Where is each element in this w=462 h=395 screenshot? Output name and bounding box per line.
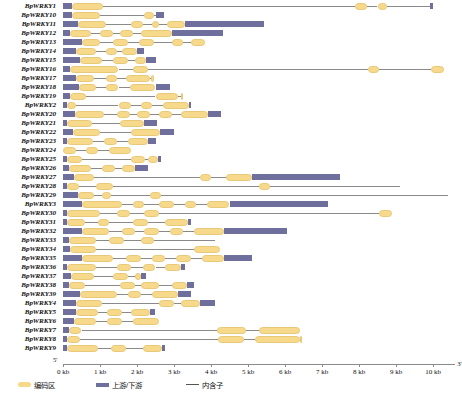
- exon-segment: [131, 156, 145, 163]
- gene-row: BpWRKY4: [0, 299, 447, 308]
- intron-segment: [109, 231, 122, 232]
- exon-segment: [141, 282, 160, 289]
- intron-segment: [148, 222, 165, 223]
- utr-segment: [135, 165, 148, 171]
- exon-segment: [172, 39, 183, 46]
- exon-segment: [67, 138, 92, 145]
- exon-segment: [133, 219, 148, 226]
- intron-segment: [135, 285, 141, 286]
- exon-segment: [98, 219, 109, 226]
- exon-segment: [200, 174, 211, 181]
- exon-segment: [131, 21, 142, 28]
- exon-segment: [130, 84, 156, 91]
- gene-track: [0, 263, 447, 272]
- exon-segment: [109, 147, 131, 154]
- legend-label-exon: 编码区: [34, 379, 55, 390]
- gene-row: BpWRKY28: [0, 182, 447, 191]
- exon-segment: [86, 147, 98, 154]
- exon-segment: [181, 111, 208, 118]
- gene-row: BpWRKY20: [0, 110, 447, 119]
- intron-segment: [113, 186, 259, 187]
- gene-row: BpWRKY39: [0, 290, 447, 299]
- exon-segment: [76, 300, 102, 307]
- exon-segment: [67, 183, 78, 190]
- exon-segment: [194, 228, 224, 235]
- exon-segment: [128, 291, 141, 298]
- gene-row: BpWRKY17: [0, 74, 447, 83]
- exon-segment: [71, 273, 94, 280]
- utr-segment: [137, 48, 144, 54]
- gene-row: BpWRKY18: [0, 83, 447, 92]
- utr-segment: [63, 57, 80, 63]
- intron-segment: [82, 159, 131, 160]
- gene-row: BpWRKY27: [0, 173, 447, 182]
- intron-segment: [117, 294, 128, 295]
- exon-segment: [67, 345, 98, 352]
- intron-segment: [96, 249, 194, 250]
- utr-segment: [172, 30, 223, 36]
- gene-row: BpWRKY14: [0, 47, 447, 56]
- axis-tick-label: 2 kb: [131, 368, 143, 376]
- exon-segment: [113, 39, 128, 46]
- utr-segment: [187, 282, 194, 288]
- gene-row: BpWRKY3: [0, 200, 447, 209]
- gene-track: [0, 65, 447, 74]
- exon-segment: [165, 264, 182, 271]
- gene-row: BpWRKY24: [0, 146, 447, 155]
- utr-segment: [63, 165, 69, 171]
- utr-segment: [63, 21, 78, 27]
- gene-track: [0, 299, 447, 308]
- intron-segment: [106, 24, 132, 25]
- exon-segment: [217, 327, 247, 334]
- utr-segment: [63, 273, 71, 279]
- exon-segment: [111, 345, 126, 352]
- exon-segment: [70, 66, 118, 73]
- intron-segment: [96, 87, 105, 88]
- utr-segment: [141, 273, 147, 279]
- intron-segment: [150, 114, 159, 115]
- intron-segment: [141, 258, 152, 259]
- intron-segment: [128, 276, 135, 277]
- exon-segment: [117, 264, 132, 271]
- exon-segment: [259, 183, 270, 190]
- intron-segment: [94, 276, 113, 277]
- utr-segment: [63, 75, 76, 81]
- exon-segment: [133, 201, 144, 208]
- gene-track: [0, 11, 447, 20]
- gene-track: [0, 164, 447, 173]
- legend-swatch-intron: [186, 384, 199, 385]
- legend-item-exon: 编码区: [18, 379, 55, 390]
- utr-segment: [63, 84, 79, 90]
- utr-segment: [63, 291, 80, 297]
- utr-segment: [63, 255, 82, 261]
- intron-segment: [76, 105, 119, 106]
- exon-segment: [67, 264, 96, 271]
- intron-segment: [159, 231, 170, 232]
- exon-segment: [379, 210, 392, 217]
- utr-segment: [63, 93, 70, 99]
- gene-row: BpWRKY16: [0, 65, 447, 74]
- exon-segment: [122, 48, 137, 55]
- axis-tick: [100, 364, 101, 367]
- intron-segment: [79, 186, 97, 187]
- utr-segment: [181, 264, 185, 270]
- gene-track: [0, 101, 447, 110]
- exon-segment: [431, 66, 444, 73]
- intron-segment: [211, 177, 226, 178]
- utr-segment: [63, 174, 74, 180]
- exon-segment: [74, 174, 94, 181]
- utr-segment: [224, 228, 287, 234]
- utr-segment: [160, 129, 174, 135]
- intron-segment: [117, 78, 126, 79]
- utr-segment: [63, 309, 76, 315]
- legend-label-intron: 内含子: [202, 379, 223, 390]
- exon-segment: [69, 282, 86, 289]
- exon-segment: [69, 165, 91, 172]
- legend-swatch-exon: [18, 382, 31, 387]
- exon-segment: [106, 84, 119, 91]
- exon-segment: [106, 48, 117, 55]
- axis-tick-label: 8 kb: [353, 368, 365, 376]
- five-prime-label: 5': [53, 356, 58, 363]
- gene-row: BpWRKY25: [0, 155, 447, 164]
